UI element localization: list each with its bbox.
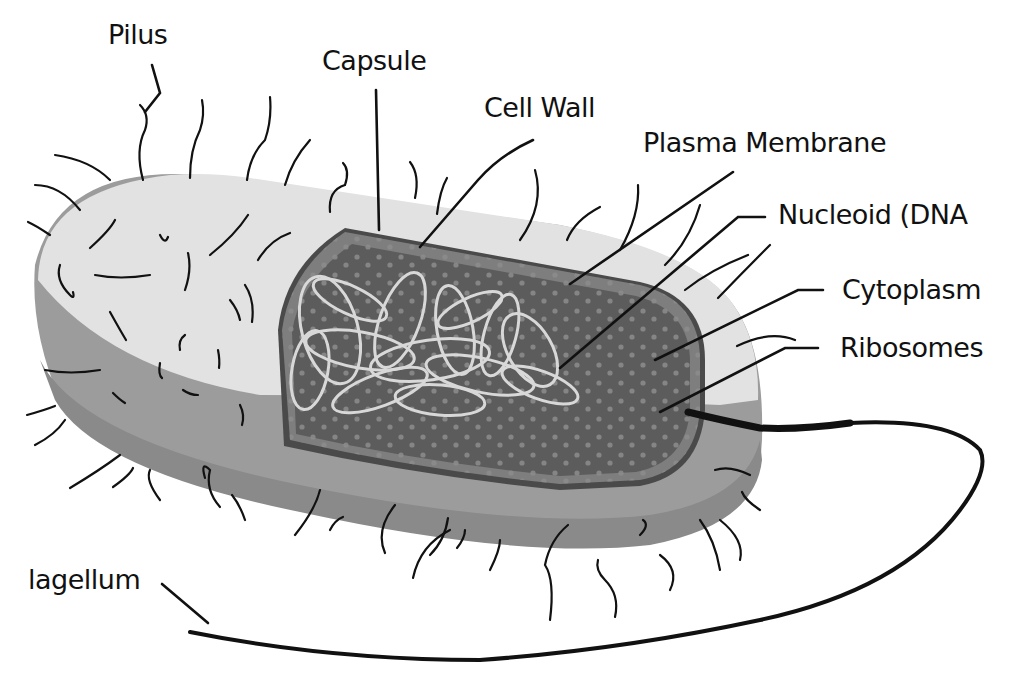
flagellum-leader bbox=[162, 584, 208, 623]
label-plasma-membrane: Plasma Membrane bbox=[643, 129, 886, 156]
bacterial-cell-diagram: Pilus Capsule Cell Wall Plasma Membrane … bbox=[0, 0, 1020, 684]
label-cell-wall: Cell Wall bbox=[484, 94, 595, 121]
label-ribosomes: Ribosomes bbox=[840, 334, 983, 361]
label-cytoplasm: Cytoplasm bbox=[842, 276, 981, 303]
label-flagellum: lagellum bbox=[28, 566, 140, 593]
label-capsule: Capsule bbox=[322, 47, 426, 74]
pilus-leader bbox=[145, 65, 160, 112]
label-pilus: Pilus bbox=[108, 21, 167, 48]
label-nucleoid: Nucleoid (DNA bbox=[778, 201, 968, 228]
